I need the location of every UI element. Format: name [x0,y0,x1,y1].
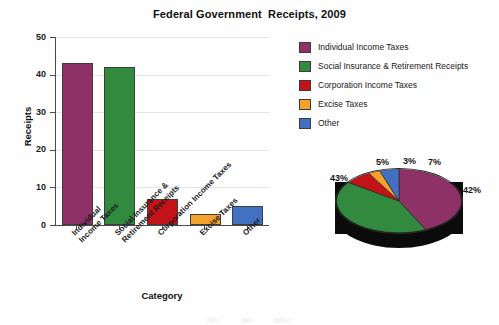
legend-item-label: Other [318,118,339,129]
pie-chart [330,160,470,255]
pie-top-face [335,168,463,234]
pie-slice-label: 42% [463,185,481,195]
caption-remnant [205,318,315,323]
y-axis-tick-label: 10 [18,183,46,192]
pie-slice-label: 5% [376,157,389,167]
y-axis-tick-mark [50,150,55,151]
pie-slice-label: 3% [403,156,416,166]
y-axis-tick-label: 0 [18,221,46,230]
gridline [56,37,269,38]
y-axis-tick-label: 40 [18,70,46,79]
legend-item-label: Corporation Income Taxes [318,80,417,91]
pie-slice-label: 7% [428,157,441,167]
pie-slice-label: 43% [330,173,348,183]
y-axis-tick-mark [50,225,55,226]
legend-swatch-icon [299,42,311,53]
legend-swatch-icon [299,118,311,129]
y-axis-tick-mark [50,75,55,76]
y-axis-tick-mark [50,112,55,113]
y-axis-label: Receipts [22,92,33,162]
legend-swatch-icon [299,99,311,110]
bar[interactable] [62,63,93,225]
legend-swatch-icon [299,80,311,91]
x-axis-label: Category [55,290,269,301]
pie-slices-svg [336,169,462,233]
y-axis-tick-mark [50,187,55,188]
legend-swatch-icon [299,61,311,72]
y-axis-tick-label: 50 [18,33,46,42]
chart-title: Federal Government Receipts, 2009 [0,8,499,20]
y-axis-tick-mark [50,37,55,38]
legend-item-label: Excise Taxes [318,99,367,110]
legend-item-label: Social Insurance & Retirement Receipts [318,61,468,72]
figure-canvas: Federal Government Receipts, 2009 504030… [0,0,499,325]
legend-item-label: Individual Income Taxes [318,42,409,53]
